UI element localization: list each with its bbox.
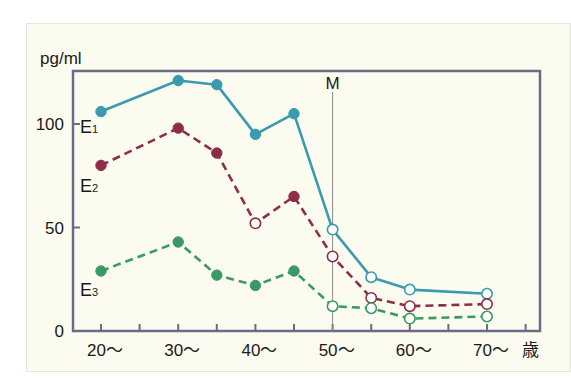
x-tick-label: 60～ <box>396 341 432 360</box>
y-tick-label: 50 <box>45 219 64 238</box>
data-point <box>405 301 415 311</box>
data-point <box>366 303 376 313</box>
data-point <box>96 266 106 276</box>
data-point <box>366 272 376 282</box>
data-point <box>173 75 183 85</box>
x-axis: 20～30～40～50～60～70～歳 <box>87 324 539 360</box>
x-tick-label: 20～ <box>87 341 123 360</box>
y-axis-unit: pg/ml <box>40 49 82 68</box>
data-point <box>482 311 492 321</box>
y-tick-label: 0 <box>55 322 64 341</box>
data-point <box>405 313 415 323</box>
series-label-e2: E2 <box>80 176 98 196</box>
data-point <box>327 224 337 234</box>
series-e2: E2 <box>80 123 492 311</box>
data-point <box>212 79 222 89</box>
menopause-marker: M <box>326 74 340 331</box>
series-group: E1E2E3 <box>80 75 492 323</box>
series-e1: E1 <box>80 75 492 299</box>
data-point <box>173 123 183 133</box>
data-point <box>289 108 299 118</box>
data-point <box>482 299 492 309</box>
y-tick-label: 100 <box>36 115 64 134</box>
x-tick-label: 50～ <box>319 341 355 360</box>
data-point <box>212 270 222 280</box>
series-e3: E3 <box>80 237 492 324</box>
data-point <box>327 251 337 261</box>
marker-label-m: M <box>326 74 340 93</box>
series-label-e3: E3 <box>80 280 98 300</box>
data-point <box>250 280 260 290</box>
data-point <box>405 284 415 294</box>
data-point <box>250 129 260 139</box>
data-point <box>289 266 299 276</box>
data-point <box>289 191 299 201</box>
series-label-e1: E1 <box>80 117 98 137</box>
data-point <box>96 160 106 170</box>
data-point <box>366 293 376 303</box>
data-point <box>327 301 337 311</box>
data-point <box>250 218 260 228</box>
x-tick-label: 30～ <box>164 341 200 360</box>
data-point <box>212 148 222 158</box>
x-axis-unit: 歳 <box>522 341 539 360</box>
data-point <box>96 106 106 116</box>
x-tick-label: 40～ <box>241 341 277 360</box>
data-point <box>482 289 492 299</box>
data-point <box>173 237 183 247</box>
x-tick-label: 70～ <box>473 341 509 360</box>
